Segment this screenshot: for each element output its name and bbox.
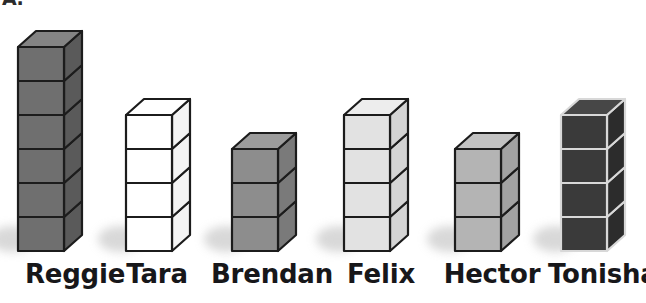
cube-front-face (126, 217, 172, 251)
cube-front-face (18, 81, 64, 115)
cube-front-face (126, 115, 172, 149)
cube-front-face (18, 47, 64, 81)
cube-front-face (232, 149, 278, 183)
cube-front-face (18, 149, 64, 183)
cube-front-face (344, 217, 390, 251)
cube-front-face (561, 115, 607, 149)
cube-front-face (18, 217, 64, 251)
cube-front-face (232, 183, 278, 217)
cube-front-face (455, 183, 501, 217)
cube-front-face (455, 149, 501, 183)
tower-felix (316, 99, 408, 252)
tower-labels: Reggie Tara Brendan Felix Hector Tonisha (0, 258, 646, 300)
tower-label-felix: Felix (330, 258, 432, 290)
cube-front-face (126, 149, 172, 183)
tower-hector (427, 133, 519, 252)
cube-front-face (455, 217, 501, 251)
cube-front-face (18, 115, 64, 149)
cube-tower-chart: A. Reggie Tara Brendan Felix Hector Toni… (0, 0, 646, 303)
tower-tara (98, 99, 190, 252)
cube-front-face (344, 183, 390, 217)
tower-label-tonisha: Tonisha (548, 258, 646, 290)
tower-reggie (0, 31, 82, 252)
towers-group (0, 31, 625, 252)
tower-tonisha (533, 99, 625, 252)
tower-label-brendan: Brendan (196, 258, 348, 290)
tower-label-hector: Hector (424, 258, 560, 290)
cube-front-face (18, 183, 64, 217)
cube-front-face (232, 217, 278, 251)
cube-front-face (126, 183, 172, 217)
cube-front-face (344, 149, 390, 183)
cube-front-face (561, 183, 607, 217)
cube-front-face (561, 217, 607, 251)
cube-front-face (344, 115, 390, 149)
cube-front-face (561, 149, 607, 183)
tower-brendan (204, 133, 296, 252)
tower-label-tara: Tara (108, 258, 206, 290)
